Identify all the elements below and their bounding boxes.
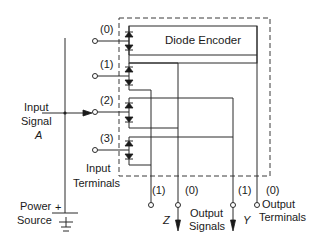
- output-terminals-label-1: Output: [262, 198, 295, 210]
- diode-pair-2: [125, 98, 233, 128]
- output-terminal-label-y1: (1): [238, 184, 251, 196]
- arrow-down-icon: [176, 220, 181, 231]
- output-signal-y: Y: [243, 214, 251, 226]
- output-terminal-y1[interactable]: [231, 203, 236, 208]
- input-signal-name: A: [34, 129, 42, 141]
- input-terminal-1[interactable]: [93, 74, 130, 79]
- input-terminal-2[interactable]: [93, 110, 130, 115]
- encoder-title: Diode Encoder: [165, 34, 241, 46]
- input-arrow-icon: [83, 110, 92, 116]
- output-terminal-z1[interactable]: [149, 203, 154, 208]
- output-terminal-label-z1: (1): [152, 184, 165, 196]
- output-terminal-label-z0: (0): [185, 184, 198, 196]
- diode-icon: [125, 80, 133, 85]
- diode-icon: [125, 117, 133, 122]
- diode-pair-1: [125, 63, 178, 90]
- input-terminals-label-1: Input: [86, 162, 110, 174]
- input-terminal-3[interactable]: [93, 148, 130, 153]
- output-terminal-z0[interactable]: [176, 203, 181, 208]
- input-signal-label-2: Signal: [21, 115, 52, 127]
- output-signal-z: Z: [162, 214, 171, 226]
- power-source-label-2: Source: [17, 214, 52, 226]
- arrow-down-icon: [231, 220, 236, 231]
- output-terminals-label-2: Terminals: [259, 211, 307, 223]
- input-signal-label-1: Input: [24, 101, 48, 113]
- input-terminal-label-1: (1): [100, 58, 113, 70]
- input-terminal-label-0: (0): [100, 23, 113, 35]
- ground-icon: [52, 213, 78, 231]
- output-signals-label-2: Signals: [189, 220, 226, 232]
- input-terminals-label-2: Terminals: [73, 177, 121, 189]
- diode-icon: [125, 67, 133, 72]
- diode-icon: [125, 141, 133, 146]
- output-signals-label-1: Output: [190, 207, 223, 219]
- input-terminal-label-2: (2): [100, 94, 113, 106]
- power-source-plus: +: [55, 201, 61, 213]
- diode-icon: [125, 32, 133, 37]
- diode-icon: [125, 154, 133, 159]
- diode-encoder-diagram: Diode Encoder: [0, 0, 325, 248]
- diode-icon: [125, 45, 133, 50]
- input-terminal-0[interactable]: [93, 39, 130, 44]
- diode-pair-3: [125, 137, 233, 165]
- output-terminal-y0[interactable]: [255, 203, 260, 208]
- input-terminal-label-3: (3): [100, 132, 113, 144]
- power-source-label-1: Power: [20, 200, 52, 212]
- output-terminal-label-y0: (0): [266, 184, 279, 196]
- diode-icon: [125, 103, 133, 108]
